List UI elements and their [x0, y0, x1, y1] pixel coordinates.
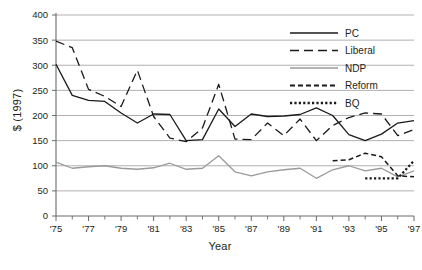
- y-tick-label: 250: [32, 85, 48, 96]
- series-line-reform: [333, 153, 414, 177]
- x-tick-label: '97: [408, 223, 420, 234]
- y-tick-label: 350: [32, 35, 48, 46]
- x-tick-label: '95: [375, 223, 387, 234]
- series-line-ndp: [56, 156, 414, 179]
- y-tick-label: 50: [37, 185, 48, 196]
- series-line-pc: [56, 64, 414, 140]
- y-tick-label: 200: [32, 110, 48, 121]
- y-tick-label: 400: [32, 9, 48, 20]
- y-tick-label: 100: [32, 160, 48, 171]
- chart-container: 050100150200250300350400 '75'77'79'81'83…: [0, 0, 422, 270]
- x-tick-label: '79: [115, 223, 127, 234]
- x-axis-tick-labels-group: '75'77'79'81'83'85'87'89'91'93'95'97: [50, 223, 420, 234]
- legend-label-bq: BQ: [345, 98, 360, 109]
- x-tick-label: '89: [278, 223, 290, 234]
- legend-label-liberal: Liberal: [345, 45, 375, 56]
- line-chart-plot: 050100150200250300350400 '75'77'79'81'83…: [0, 0, 422, 270]
- x-tick-label: '75: [50, 223, 62, 234]
- x-tick-label: '87: [245, 223, 257, 234]
- y-tick-label: 150: [32, 135, 48, 146]
- y-axis-title: $ (1997): [11, 80, 23, 140]
- x-tick-label: '93: [343, 223, 355, 234]
- x-tick-label: '77: [82, 223, 94, 234]
- y-tick-label: 300: [32, 60, 48, 71]
- x-tick-label: '81: [147, 223, 159, 234]
- y-axis-ticks-group: [52, 15, 56, 216]
- x-axis-ticks-group: [56, 216, 414, 221]
- legend-label-ndp: NDP: [345, 63, 366, 74]
- data-series-group: [56, 41, 414, 178]
- legend-label-reform: Reform: [345, 80, 378, 91]
- y-tick-label: 0: [43, 210, 48, 221]
- gridlines-group: [56, 15, 414, 191]
- legend-label-pc: PC: [345, 28, 359, 39]
- x-tick-label: '85: [213, 223, 225, 234]
- x-tick-label: '91: [310, 223, 322, 234]
- x-axis-title: Year: [180, 240, 260, 252]
- x-tick-label: '83: [180, 223, 192, 234]
- y-axis-tick-labels-group: 050100150200250300350400: [32, 9, 48, 221]
